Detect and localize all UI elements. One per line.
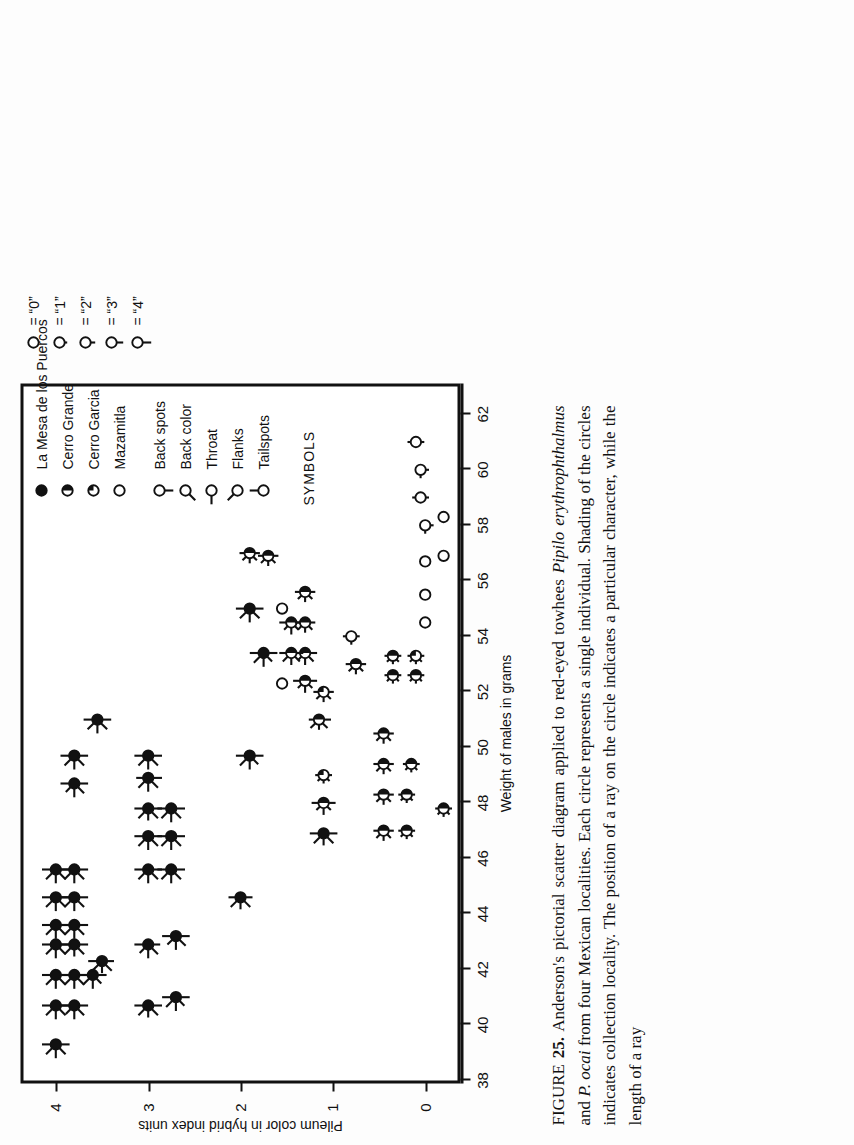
caption-part-2: and xyxy=(574,1096,593,1125)
data-point xyxy=(420,617,430,627)
data-point xyxy=(373,789,393,804)
legend-scale-row: = “0” xyxy=(20,296,46,355)
data-point xyxy=(42,1000,70,1019)
data-point xyxy=(345,658,365,673)
legend-symbols-heading: SYMBOLS xyxy=(300,430,316,505)
x-tick xyxy=(460,800,470,802)
data-point xyxy=(373,728,393,743)
ray-length-icon xyxy=(45,329,73,355)
x-axis-ticks: 38404244464850525456586062 xyxy=(460,383,500,1083)
data-point xyxy=(134,864,162,883)
data-point xyxy=(239,547,259,562)
rotated-figure-stage: 38404244464850525456586062 01234 Weight … xyxy=(0,0,854,1145)
x-tick-label: 54 xyxy=(473,628,490,645)
y-axis-title: Pileum color in hybrid index units xyxy=(138,1117,343,1133)
open-circle-icon xyxy=(106,475,132,505)
data-point xyxy=(157,831,185,850)
legend-character-label: Tailspots xyxy=(255,415,271,475)
data-point xyxy=(373,825,393,840)
caption-part-1: Anderson's pictorial scatter diagram app… xyxy=(548,573,567,1037)
data-point xyxy=(60,864,88,883)
filled-circle-icon xyxy=(28,475,54,505)
caption-part-3: from four Mexican localities. Each circl… xyxy=(574,405,644,1125)
figure-number: 25. xyxy=(548,1036,567,1057)
data-point xyxy=(134,803,162,820)
legend-character-row: Tailspots xyxy=(250,319,276,505)
data-point xyxy=(60,939,88,956)
quarter-filled-circle-icon xyxy=(80,475,106,505)
x-tick xyxy=(460,578,470,580)
x-tick xyxy=(460,1022,470,1024)
data-point xyxy=(60,1000,88,1019)
x-tick-label: 56 xyxy=(473,572,490,589)
y-tick-label: 1 xyxy=(324,1103,341,1111)
ray-circle-icon xyxy=(224,475,250,505)
y-tick-label: 0 xyxy=(416,1103,433,1111)
data-point xyxy=(60,969,88,988)
data-point xyxy=(157,803,185,822)
legend-scale-label: = “0” xyxy=(25,296,41,329)
legend-locality-label: Cerro Grande xyxy=(59,383,75,475)
data-point xyxy=(398,789,415,803)
data-point xyxy=(313,686,333,701)
data-point xyxy=(60,750,88,769)
figure-caption: FIGURE 25. Anderson's pictorial scatter … xyxy=(545,405,647,1125)
data-point xyxy=(134,939,160,958)
y-tick xyxy=(425,1081,427,1091)
data-point xyxy=(402,758,419,772)
x-tick-label: 48 xyxy=(473,794,490,811)
legend-locality-label: Mazamitla xyxy=(111,405,127,475)
ray-circle-icon xyxy=(198,475,224,505)
x-tick xyxy=(460,856,470,858)
data-point xyxy=(315,769,332,783)
x-tick-label: 42 xyxy=(473,961,490,978)
data-point xyxy=(279,617,303,634)
data-point xyxy=(157,864,185,883)
data-point xyxy=(438,511,448,521)
data-point xyxy=(435,803,452,817)
data-point xyxy=(42,969,70,988)
x-tick xyxy=(460,412,470,414)
ray-length-icon xyxy=(19,329,47,355)
x-tick-label: 38 xyxy=(473,1072,490,1089)
x-tick xyxy=(460,523,470,525)
x-tick xyxy=(460,467,470,469)
data-point xyxy=(373,758,393,773)
data-point xyxy=(398,825,415,839)
data-point xyxy=(420,589,430,599)
ray-circle-icon xyxy=(172,475,198,505)
y-tick xyxy=(240,1081,242,1091)
data-point xyxy=(308,714,330,729)
data-point xyxy=(279,647,303,664)
data-point xyxy=(407,436,424,446)
data-point xyxy=(60,892,88,911)
ray-length-icon xyxy=(123,329,151,355)
x-axis-title: Weight of males in grams xyxy=(497,383,513,1083)
x-tick xyxy=(460,745,470,747)
legend-character-row: Back color xyxy=(172,319,198,505)
x-tick xyxy=(460,1078,470,1080)
y-tick xyxy=(55,1081,57,1091)
ray-circle-icon xyxy=(146,475,172,505)
legend-scale-label: = “2” xyxy=(77,296,93,329)
data-point xyxy=(342,631,359,645)
data-point xyxy=(294,586,314,601)
x-tick xyxy=(460,689,470,691)
legend-character-row: Flanks xyxy=(224,319,250,505)
data-point xyxy=(228,892,252,909)
legend-character-label: Throat xyxy=(203,429,219,475)
data-point xyxy=(42,1039,70,1058)
data-point xyxy=(258,550,278,565)
data-point xyxy=(134,1000,162,1017)
data-point xyxy=(42,919,70,938)
data-point xyxy=(162,992,190,1011)
data-point xyxy=(309,828,337,845)
data-point xyxy=(235,750,263,769)
ray-length-icon xyxy=(71,329,99,355)
data-point xyxy=(412,492,429,502)
x-tick-label: 52 xyxy=(473,683,490,700)
legend-scale-row: = “2” xyxy=(72,296,98,355)
y-tick xyxy=(332,1081,334,1091)
legend-character-label: Back color xyxy=(177,404,193,475)
data-point xyxy=(60,919,88,938)
